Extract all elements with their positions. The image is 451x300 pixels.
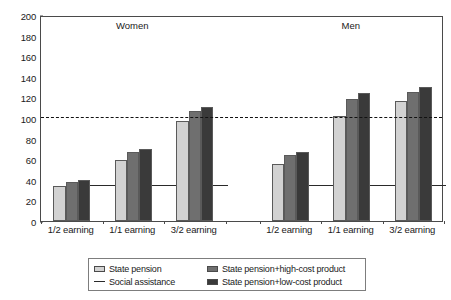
legend-item-state-pension: State pension [94, 264, 207, 274]
legend-swatch-high-cost [207, 266, 218, 272]
legend-item-high-cost: State pension+high-cost product [207, 264, 345, 274]
x-tick-label: 3/2 earning [389, 224, 435, 235]
pension-replacement-rate-chart: 020406080100120140160180200 1/2 earning1… [0, 0, 451, 300]
panel-title-men: Men [342, 20, 360, 31]
y-tick-label: 160 [21, 52, 36, 63]
y-tick-label: 200 [21, 11, 36, 22]
panel-title-women: Women [116, 20, 149, 31]
x-tick-label: 1/2 earning [48, 224, 94, 235]
legend-label-high-cost: State pension+high-cost product [222, 264, 345, 274]
y-tick-label: 0 [31, 217, 36, 228]
bar [333, 116, 345, 221]
y-tick-label: 180 [21, 31, 36, 42]
chart-legend: State pension State pension+high-cost pr… [88, 258, 366, 291]
bar [201, 107, 213, 221]
bar [358, 93, 370, 221]
bar [296, 152, 308, 221]
y-tick-label: 40 [26, 175, 36, 186]
legend-label-low-cost: State pension+low-cost product [222, 277, 342, 287]
legend-item-social-assistance: Social assistance [94, 277, 207, 287]
plot-area [40, 16, 443, 222]
reference-line-100 [41, 117, 442, 118]
bar [115, 160, 127, 221]
y-tick-label: 20 [26, 196, 36, 207]
bar [127, 152, 139, 221]
x-axis-labels: 1/2 earning1/1 earning3/2 earning1/2 ear… [40, 224, 443, 240]
legend-item-low-cost: State pension+low-cost product [207, 277, 342, 287]
y-axis: 020406080100120140160180200 [0, 16, 40, 222]
y-tick-label: 140 [21, 72, 36, 83]
x-tick-label: 1/1 earning [328, 224, 374, 235]
y-tick-label: 60 [26, 155, 36, 166]
legend-swatch-state-pension [94, 266, 105, 272]
legend-swatch-low-cost [207, 279, 218, 285]
y-tick-label: 120 [21, 93, 36, 104]
x-tick-label: 3/2 earning [171, 224, 217, 235]
legend-label-social-assistance: Social assistance [109, 277, 175, 287]
bar [189, 111, 201, 221]
x-tick-label: 1/1 earning [109, 224, 155, 235]
x-tick-mark [444, 221, 445, 224]
legend-line-social-assistance [94, 281, 105, 282]
bar [284, 155, 296, 221]
x-tick-label: 1/2 earning [266, 224, 312, 235]
bar [407, 92, 419, 221]
legend-label-state-pension: State pension [109, 264, 161, 274]
bar [395, 101, 407, 222]
y-tick-label: 100 [21, 114, 36, 125]
legend-row: State pension State pension+high-cost pr… [94, 262, 360, 275]
bar [53, 186, 65, 221]
legend-row: Social assistance State pension+low-cost… [94, 275, 360, 288]
bar [139, 149, 151, 221]
bar [419, 87, 431, 221]
y-tick-label: 80 [26, 134, 36, 145]
bar [176, 121, 188, 221]
bar [78, 180, 90, 221]
bar [272, 164, 284, 221]
bar [66, 182, 78, 221]
